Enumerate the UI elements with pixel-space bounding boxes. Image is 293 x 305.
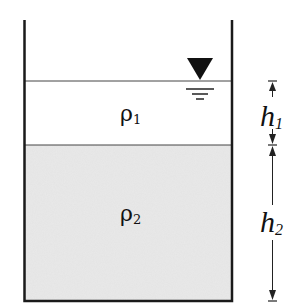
rho1-label: ρ1 — [120, 101, 141, 127]
water-level-icon — [186, 58, 214, 99]
h1-label: h1 — [260, 99, 283, 132]
tank-diagram: ρ1 ρ2 h1 h2 — [0, 0, 293, 305]
h2-label: h2 — [260, 205, 283, 238]
